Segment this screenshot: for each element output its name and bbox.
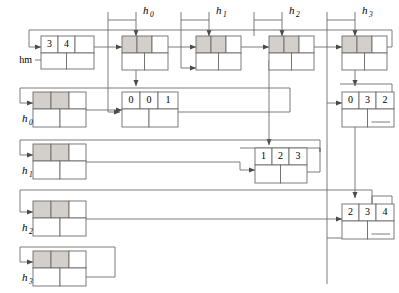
svg-text:2: 2 <box>29 227 33 236</box>
h1-col-wrap <box>181 20 196 68</box>
svg-text:h: h <box>143 4 149 16</box>
cell-bottom-right <box>149 109 178 127</box>
h2-row-loop <box>20 190 33 212</box>
node-123: 123 <box>255 148 307 183</box>
cell-value: 3 <box>365 206 370 217</box>
node-row1-left <box>33 92 86 127</box>
cell-bottom-left <box>122 53 145 70</box>
hash-table-linked-structure-diagram: 34001032123234 hm h 0 h 1 h 2 h 3 h 0 h … <box>0 0 399 293</box>
cell-top-2 <box>152 36 168 53</box>
node-group: 34001032123234 <box>33 36 394 286</box>
node-row0-col0 <box>122 36 168 70</box>
node-001: 001 <box>122 92 178 127</box>
cell-bottom-left <box>41 53 67 69</box>
cell-value: 2 <box>278 150 283 161</box>
cell-top-1 <box>137 36 152 53</box>
label-h3-top: h 3 <box>362 4 373 19</box>
cell-top-2 <box>69 144 86 161</box>
cell-value: 0 <box>348 94 353 105</box>
node-hm: 34 <box>41 36 94 69</box>
cell-bottom-right <box>368 109 395 127</box>
cell-top-0 <box>33 92 51 109</box>
cell-top-0 <box>196 36 211 53</box>
cell-value: 2 <box>383 94 388 105</box>
svg-text:h: h <box>22 271 28 283</box>
cell-top-1 <box>211 36 226 53</box>
label-h1-left: h 1 <box>22 164 33 179</box>
svg-text:h: h <box>289 4 295 16</box>
cell-bottom-left <box>33 218 60 236</box>
cell-top-1 <box>51 144 69 161</box>
node-row4-left <box>33 251 86 286</box>
h1-row-loop <box>20 140 33 155</box>
node-234: 234 <box>342 204 394 239</box>
bracket-h2 <box>254 12 282 20</box>
cell-bottom-left <box>33 161 60 179</box>
cell-bottom-right <box>60 268 86 286</box>
cell-bottom-right <box>60 218 86 236</box>
cell-bottom-right <box>145 53 169 70</box>
cell-top-0 <box>33 201 51 218</box>
label-h3-left: h 3 <box>22 271 33 286</box>
label-hm: hm <box>19 54 32 65</box>
svg-text:1: 1 <box>29 170 33 179</box>
svg-text:0: 0 <box>29 118 33 127</box>
node-032: 032 <box>342 92 394 127</box>
cell-value: 3 <box>296 150 301 161</box>
cell-bottom-right <box>281 165 308 183</box>
cell-top-2 <box>69 92 86 109</box>
cell-top-2 <box>226 36 241 53</box>
cell-bottom-right <box>60 161 86 179</box>
cell-top-2 <box>69 251 86 268</box>
label-h2-top: h 2 <box>289 4 300 19</box>
cell-bottom-left <box>122 109 149 127</box>
label-h0-left: h 0 <box>22 112 33 127</box>
cell-value: 4 <box>383 206 388 217</box>
cell-top-0 <box>122 36 137 53</box>
cell-top-2 <box>299 36 314 53</box>
cell-bottom-left <box>269 53 292 70</box>
cell-value: 0 <box>129 94 134 105</box>
cell-bottom-right <box>368 221 395 239</box>
node-row0-col1 <box>196 36 241 70</box>
cell-top-0 <box>33 251 51 268</box>
cell-bottom-left <box>255 165 281 183</box>
cell-bottom-right <box>219 53 242 70</box>
bracket-h0 <box>108 12 136 20</box>
cell-top-1 <box>51 251 69 268</box>
cell-top-0 <box>269 36 284 53</box>
cell-value: 1 <box>261 150 266 161</box>
svg-text:h: h <box>22 164 28 176</box>
svg-text:h: h <box>22 221 28 233</box>
svg-text:3: 3 <box>368 10 373 19</box>
cell-bottom-left <box>342 221 368 239</box>
cell-bottom-left <box>196 53 219 70</box>
node-row2-left <box>33 144 86 179</box>
cell-value: 4 <box>64 38 69 49</box>
cell-top-1 <box>284 36 299 53</box>
cell-top-2 <box>69 201 86 218</box>
node-row0-col3 <box>342 36 387 70</box>
cell-value: 3 <box>365 94 370 105</box>
cell-value: 3 <box>47 38 52 49</box>
h0-col-wrap <box>108 20 120 112</box>
cell-bottom-left <box>342 53 365 70</box>
cell-bottom-right <box>67 53 95 69</box>
cell-bottom-right <box>365 53 388 70</box>
cell-top-1 <box>51 92 69 109</box>
node-row0-col2 <box>269 36 314 70</box>
bracket-h3 <box>327 12 355 20</box>
cell-value: 2 <box>348 206 353 217</box>
cell-top-0 <box>342 36 357 53</box>
cell-bottom-right <box>60 109 86 127</box>
cell-value: 1 <box>166 94 171 105</box>
arrow-col3-wrap <box>387 30 392 47</box>
svg-text:h: h <box>362 4 368 16</box>
svg-text:h: h <box>216 4 222 16</box>
cell-bottom-left <box>33 268 60 286</box>
svg-text:h: h <box>22 112 28 124</box>
label-h1-top: h 1 <box>216 4 227 19</box>
h3-row-loop <box>20 247 33 262</box>
cell-bottom-left <box>33 109 60 127</box>
cell-top-0 <box>33 144 51 161</box>
